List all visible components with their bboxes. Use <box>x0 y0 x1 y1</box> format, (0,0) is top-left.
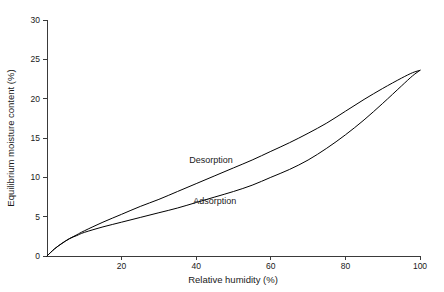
y-axis-tick-labels: 051015202530 <box>31 15 41 261</box>
x-tick-label: 80 <box>341 261 351 271</box>
x-axis-title: Relative humidity (%) <box>188 274 278 285</box>
chart-canvas: 051015202530 20406080100 DesorptionAdsor… <box>0 0 444 292</box>
y-tick-label: 20 <box>31 94 41 104</box>
curve-label-desorption: Desorption <box>189 155 233 165</box>
x-tick-label: 20 <box>117 261 127 271</box>
curve-desorption <box>47 70 420 256</box>
y-axis: 051015202530 <box>31 15 47 261</box>
x-axis-ticks <box>122 256 420 260</box>
y-tick-label: 25 <box>31 54 41 64</box>
y-axis-ticks <box>43 20 47 256</box>
curve-adsorption <box>47 70 420 256</box>
x-axis: 20406080100 <box>47 256 427 271</box>
y-tick-label: 5 <box>35 212 40 222</box>
x-tick-label: 60 <box>266 261 276 271</box>
x-tick-label: 40 <box>191 261 201 271</box>
y-tick-label: 0 <box>35 251 40 261</box>
x-tick-label: 100 <box>413 261 427 271</box>
y-tick-label: 15 <box>31 133 41 143</box>
data-curves <box>47 70 420 256</box>
curve-annotations: DesorptionAdsorption <box>189 155 236 206</box>
x-axis-tick-labels: 20406080100 <box>117 261 427 271</box>
sorption-isotherm-figure: 051015202530 20406080100 DesorptionAdsor… <box>0 0 444 292</box>
y-tick-label: 10 <box>31 172 41 182</box>
curve-label-adsorption: Adsorption <box>193 196 236 206</box>
y-tick-label: 30 <box>31 15 41 25</box>
y-axis-title: Equilibrium moisture content (%) <box>5 69 16 206</box>
